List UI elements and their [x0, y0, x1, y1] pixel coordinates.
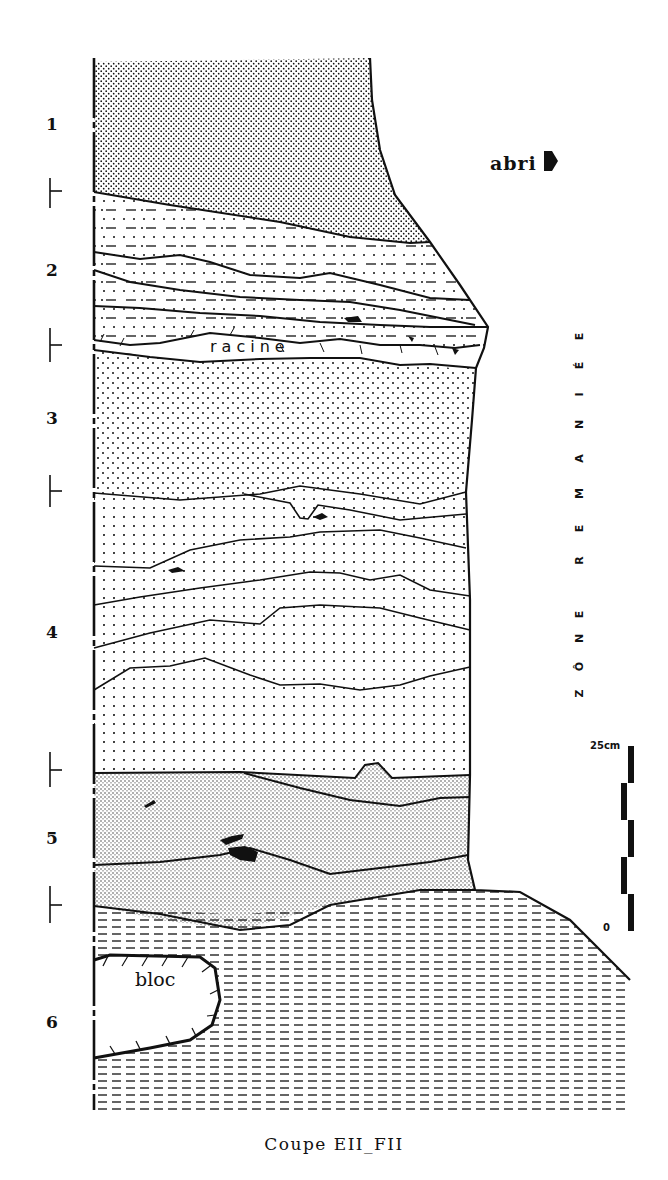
layer-3-fill — [94, 350, 476, 504]
layer-number-1: 1 — [46, 114, 58, 134]
root-label: racine — [210, 337, 290, 356]
layer-4-fill — [94, 486, 470, 778]
layer-number-5: 5 — [46, 828, 58, 848]
block-label: bloc — [135, 968, 175, 990]
stratigraphic-section — [0, 0, 668, 1180]
scale-top-label: 25cm — [590, 740, 620, 751]
layer-number-6: 6 — [46, 1012, 58, 1032]
scale-zero-label: 0 — [603, 922, 610, 933]
side-zone-label: E É I N A M E R E N Ô Z — [572, 330, 586, 710]
figure-caption: Coupe EII_FII — [0, 1134, 668, 1154]
layer-number-3: 3 — [46, 408, 58, 428]
abri-arrow-icon — [544, 151, 558, 171]
layer-boundary-ticks — [50, 178, 62, 923]
scale-bar — [621, 746, 634, 931]
layer-number-2: 2 — [46, 260, 58, 280]
abri-label: abri — [490, 152, 537, 174]
layer-number-4: 4 — [46, 622, 58, 642]
